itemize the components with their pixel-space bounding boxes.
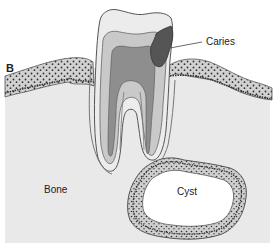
cyst-label: Cyst <box>177 186 197 197</box>
cyst-lumen <box>143 170 234 226</box>
caries-leader-line <box>170 42 202 48</box>
panel-letter: B <box>6 62 14 74</box>
caries-label: Caries <box>206 36 235 47</box>
bone-label: Bone <box>44 184 67 195</box>
